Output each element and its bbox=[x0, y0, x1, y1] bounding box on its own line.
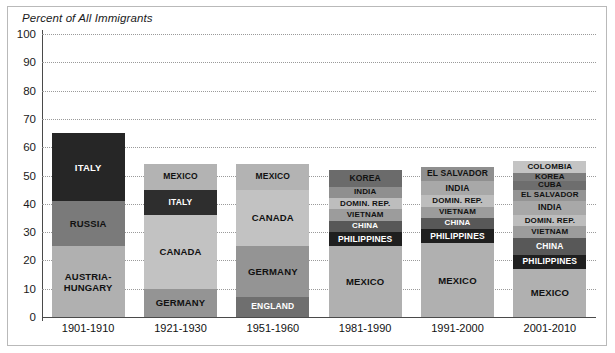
segment-label: RUSSIA bbox=[52, 218, 125, 229]
bar-segment: MEXICO bbox=[236, 164, 309, 189]
segment-label: VIETNAM bbox=[329, 211, 402, 219]
bar-segment: PHILIPPINES bbox=[513, 255, 586, 269]
y-tick-40: 40 bbox=[2, 198, 36, 210]
segment-label: ITALY bbox=[52, 162, 125, 173]
bar-1901-1910: AUSTRIA- HUNGARYRUSSIAITALY bbox=[52, 133, 125, 317]
segment-label: MEXICO bbox=[329, 276, 402, 287]
bar-segment: ENGLAND bbox=[236, 297, 309, 317]
y-tick-30: 30 bbox=[2, 226, 36, 238]
segment-label: PHILIPPINES bbox=[513, 257, 586, 266]
segment-label: INDIA bbox=[421, 184, 494, 193]
bar-segment: PHILIPPINES bbox=[329, 232, 402, 246]
segment-label: KOREA bbox=[329, 174, 402, 183]
bar-segment: VIETNAM bbox=[513, 226, 586, 237]
bar-segment: MEXICO bbox=[513, 269, 586, 317]
segment-label: MEXICO bbox=[236, 172, 309, 181]
bar-2001-2010: MEXICOPHILIPPINESCHINAVIETNAMDOMIN. REP.… bbox=[513, 161, 586, 317]
bar-segment: ITALY bbox=[52, 133, 125, 201]
bar-segment: CHINA bbox=[513, 238, 586, 255]
segment-label: MEXICO bbox=[144, 172, 217, 181]
bar-segment: KOREA bbox=[329, 170, 402, 187]
bar-segment: VIETNAM bbox=[421, 207, 494, 218]
bar-segment: DOMIN. REP. bbox=[329, 198, 402, 209]
bar-1921-1930: GERMANYCANADAITALYMEXICO bbox=[144, 164, 217, 317]
bar-segment: RUSSIA bbox=[52, 201, 125, 246]
x-axis-tick-labels: 1901-19101921-19301951-19601981-19901991… bbox=[42, 322, 596, 342]
segment-label: INDIA bbox=[329, 188, 402, 196]
segment-label: DOMIN. REP. bbox=[329, 200, 402, 208]
x-tick-1921-1930: 1921-1930 bbox=[154, 322, 207, 334]
segment-label: DOMIN. REP. bbox=[421, 197, 494, 205]
segment-label: CHINA bbox=[329, 222, 402, 230]
segment-label: GERMANY bbox=[144, 297, 217, 308]
bar-segment: VIETNAM bbox=[329, 209, 402, 220]
x-tick-1991-2000: 1991-2000 bbox=[431, 322, 484, 334]
bar-segment: COLOMBIA bbox=[513, 161, 586, 172]
x-tick-2001-2010: 2001-2010 bbox=[524, 322, 577, 334]
segment-label: CUBA bbox=[513, 181, 586, 189]
y-tick-50: 50 bbox=[2, 170, 36, 182]
segment-label: ITALY bbox=[144, 198, 217, 207]
segment-label: DOMIN. REP. bbox=[513, 217, 586, 225]
bar-segment: ITALY bbox=[144, 190, 217, 215]
bar-1981-1990: MEXICOPHILIPPINESCHINAVIETNAMDOMIN. REP.… bbox=[329, 170, 402, 317]
bar-segment: CANADA bbox=[144, 215, 217, 289]
bar-segment: EL SALVADOR bbox=[513, 190, 586, 201]
segment-label: CHINA bbox=[513, 242, 586, 251]
segment-label: VIETNAM bbox=[513, 228, 586, 236]
y-tick-90: 90 bbox=[2, 56, 36, 68]
bar-segment: PHILIPPINES bbox=[421, 229, 494, 243]
bar-segment: MEXICO bbox=[329, 246, 402, 317]
bar-segment: DOMIN. REP. bbox=[421, 195, 494, 206]
bar-1991-2000: MEXICOPHILIPPINESCHINAVIETNAMDOMIN. REP.… bbox=[421, 167, 494, 317]
segment-label: PHILIPPINES bbox=[329, 235, 402, 244]
bar-segment: AUSTRIA- HUNGARY bbox=[52, 246, 125, 317]
segment-label: AUSTRIA- HUNGARY bbox=[52, 271, 125, 293]
y-tick-10: 10 bbox=[2, 283, 36, 295]
segment-label: INDIA bbox=[513, 203, 586, 212]
y-tick-0: 0 bbox=[2, 311, 36, 323]
bar-segment: CHINA bbox=[329, 221, 402, 232]
y-tick-80: 80 bbox=[2, 85, 36, 97]
segment-label: EL SALVADOR bbox=[421, 169, 494, 178]
y-tick-20: 20 bbox=[2, 254, 36, 266]
bar-segment: MEXICO bbox=[144, 164, 217, 189]
bar-segment: DOMIN. REP. bbox=[513, 215, 586, 226]
segment-label: GERMANY bbox=[236, 266, 309, 277]
chart-page: Percent of All Immigrants AUSTRIA- HUNGA… bbox=[0, 0, 615, 353]
segment-label: EL SALVADOR bbox=[513, 191, 586, 199]
segment-label: KOREA bbox=[513, 173, 586, 181]
y-tick-100: 100 bbox=[2, 28, 36, 40]
gridline-0 bbox=[42, 317, 596, 318]
bar-segment: INDIA bbox=[329, 187, 402, 198]
segment-label: CANADA bbox=[236, 212, 309, 223]
x-tick-1981-1990: 1981-1990 bbox=[339, 322, 392, 334]
bar-1951-1960: ENGLANDGERMANYCANADAMEXICO bbox=[236, 164, 309, 317]
bar-segment: CANADA bbox=[236, 190, 309, 247]
segment-label: ENGLAND bbox=[236, 302, 309, 311]
segment-label: PHILIPPINES bbox=[421, 232, 494, 241]
x-tick-1901-1910: 1901-1910 bbox=[62, 322, 115, 334]
segment-label: MEXICO bbox=[421, 275, 494, 286]
segment-label: CANADA bbox=[144, 246, 217, 257]
segment-label: VIETNAM bbox=[421, 208, 494, 216]
bar-segment: EL SALVADOR bbox=[421, 167, 494, 181]
bar-segment: KOREA bbox=[513, 173, 586, 181]
segment-label: CHINA bbox=[421, 219, 494, 227]
y-tick-60: 60 bbox=[2, 141, 36, 153]
bar-segment: CHINA bbox=[421, 218, 494, 229]
segment-label: MEXICO bbox=[513, 287, 586, 298]
y-axis-tick-labels: 0102030405060708090100 bbox=[0, 34, 36, 317]
bar-segment: GERMANY bbox=[144, 289, 217, 317]
x-tick-1951-1960: 1951-1960 bbox=[247, 322, 300, 334]
bar-segment: GERMANY bbox=[236, 246, 309, 297]
y-tick-70: 70 bbox=[2, 113, 36, 125]
bar-segment: INDIA bbox=[513, 201, 586, 215]
y-axis-title: Percent of All Immigrants bbox=[22, 12, 153, 24]
bar-segment: MEXICO bbox=[421, 243, 494, 317]
bar-segment: INDIA bbox=[421, 181, 494, 195]
bar-group: AUSTRIA- HUNGARYRUSSIAITALYGERMANYCANADA… bbox=[42, 34, 596, 317]
bar-segment: CUBA bbox=[513, 181, 586, 189]
plot-area: AUSTRIA- HUNGARYRUSSIAITALYGERMANYCANADA… bbox=[42, 34, 596, 317]
segment-label: COLOMBIA bbox=[513, 163, 586, 171]
